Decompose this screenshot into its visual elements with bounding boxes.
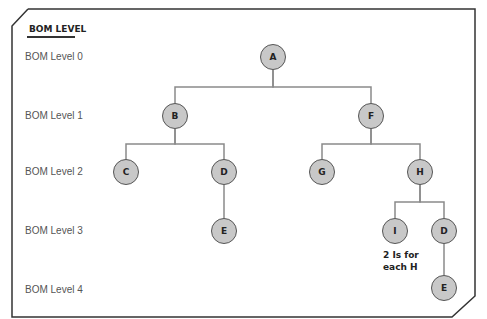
edge-a-b [175, 70, 273, 103]
tree-node-b: B [162, 103, 188, 129]
bom-level-label-1: BOM Level 1 [25, 110, 83, 121]
tree-node-d1: D [211, 159, 237, 185]
tree-node-e1: E [211, 218, 237, 244]
tree-node-i: I [382, 218, 408, 244]
bom-level-label-3: BOM Level 3 [25, 225, 83, 236]
edge-h-d2 [420, 185, 444, 218]
tree-node-f: F [358, 103, 384, 129]
quantity-note: 2 Is for each H [383, 249, 419, 273]
title-underline [27, 36, 75, 38]
note-line-2: each H [383, 261, 419, 273]
edge-b-c [126, 129, 175, 159]
edge-f-h [371, 129, 420, 159]
tree-node-g: G [309, 159, 335, 185]
bom-level-label-4: BOM Level 4 [25, 284, 83, 295]
diagram-title: BOM LEVEL [29, 24, 86, 34]
edge-h-i [395, 185, 420, 218]
tree-node-a: A [260, 44, 286, 70]
tree-node-d2: D [431, 218, 457, 244]
tree-node-h: H [407, 159, 433, 185]
note-line-1: 2 Is for [383, 249, 419, 261]
edge-f-g [322, 129, 371, 159]
edge-b-d1 [175, 129, 224, 159]
edge-a-f [273, 70, 371, 103]
tree-connectors [126, 70, 444, 275]
bom-level-label-0: BOM Level 0 [25, 51, 83, 62]
bom-level-label-2: BOM Level 2 [25, 166, 83, 177]
tree-node-e2: E [431, 275, 457, 301]
tree-node-c: C [113, 159, 139, 185]
